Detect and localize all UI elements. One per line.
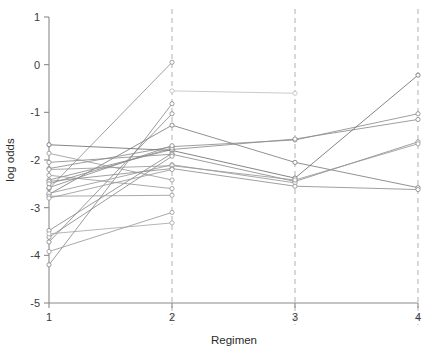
x-tick-label-3: 4 [415,311,421,323]
y-tick-label-4: -3 [30,202,40,214]
axes-group [44,17,418,308]
x-tick-label-2: 3 [292,311,298,323]
y-axis-title: log odds [4,138,16,182]
data-point-subject-08-x4 [416,73,420,77]
y-tick-label-2: -1 [30,106,40,118]
data-point-subject-02-x2 [170,89,174,93]
data-point-subject-14-x4 [416,187,420,191]
data-point-subject-21-x1 [47,186,51,190]
data-point-subject-18-x2 [170,210,174,214]
chart-container: 10-1-2-3-4-5 1234 log odds Regimen [0,0,429,352]
data-point-subject-01-x2 [170,60,174,64]
data-point-subject-22-x1 [47,196,51,200]
y-tick-labels-group: 10-1-2-3-4-5 [30,11,40,309]
trajectory-subject-14 [49,169,418,190]
y-tick-label-1: 0 [34,59,40,71]
trajectory-subject-16 [49,175,172,188]
data-point-subject-13-x4 [416,142,420,146]
trajectory-subject-13 [49,144,418,180]
y-tick-label-5: -4 [30,249,40,261]
reference-lines-group [172,9,418,325]
x-tick-label-0: 1 [46,311,52,323]
data-series-group [49,62,418,265]
data-point-subject-19-x1 [47,232,51,236]
x-axis-title: Regimen [211,334,257,346]
data-point-subject-03-x1 [47,263,51,267]
data-point-subject-17-x2 [170,193,174,197]
trajectory-subject-08 [49,75,418,178]
data-point-subject-15-x1 [47,151,51,155]
data-point-subject-13-x3 [293,178,297,182]
y-tick-label-0: 1 [34,11,40,23]
data-point-subject-03-x2 [170,102,174,106]
trajectory-subject-01 [49,62,172,188]
data-point-subject-19-x2 [170,221,174,225]
data-point-subject-18-x1 [47,249,51,253]
trajectory-subject-17 [49,195,172,196]
data-point-subject-16-x2 [170,187,174,191]
data-point-subject-13-x1 [47,167,51,171]
x-tick-label-1: 2 [169,311,175,323]
trajectory-subject-02 [172,91,295,93]
log-odds-spaghetti-plot: 10-1-2-3-4-5 1234 log odds Regimen [0,0,429,352]
trajectory-subject-04 [49,114,172,242]
trajectory-subject-11 [49,156,172,237]
data-point-subject-05-x2 [170,123,174,127]
data-point-subject-10-x1 [47,160,51,164]
data-point-subject-07-x4 [416,117,420,121]
x-tick-labels-group: 1234 [46,311,421,323]
data-point-subject-06-x4 [416,112,420,116]
data-point-subject-15-x2 [170,178,174,182]
data-point-subject-14-x3 [293,184,297,188]
data-point-subject-22-x2 [170,167,174,171]
data-point-subject-11-x2 [170,154,174,158]
y-tick-label-6: -5 [30,297,40,309]
data-point-subject-21-x2 [170,144,174,148]
data-point-subject-07-x3 [293,137,297,141]
data-point-subject-04-x2 [170,112,174,116]
data-point-subject-08-x1 [47,143,51,147]
data-point-subject-05-x3 [293,160,297,164]
data-point-subject-16-x1 [47,173,51,177]
y-tick-label-3: -2 [30,154,40,166]
data-point-subject-04-x1 [47,240,51,244]
data-point-subject-02-x3 [293,91,297,95]
trajectory-subject-07 [49,119,418,180]
